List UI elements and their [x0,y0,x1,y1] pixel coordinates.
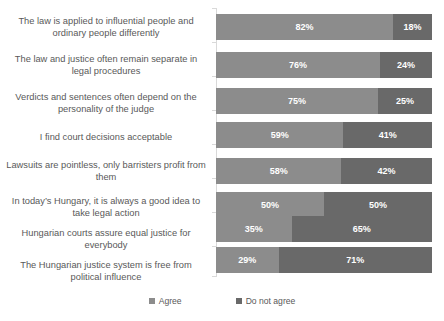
legend-item-do-not-agree[interactable]: Do not agree [236,296,296,306]
category-label: The Hungarian justice system is free fro… [4,254,212,288]
category-label: In today’s Hungary, it is always a good … [4,190,212,224]
bar-segment-disagree: 71% [279,247,432,273]
chart-legend: Agree Do not agree [0,293,444,309]
bar-segment-disagree: 50% [324,192,432,218]
bar-value-label: 71% [346,255,364,265]
legend-swatch-icon [149,298,155,304]
bar-value-label: 82% [296,22,314,32]
bar-segment-agree: 58% [216,158,341,184]
bar-value-label: 50% [261,200,279,210]
bar-value-label: 58% [270,166,288,176]
category-label: Hungarian courts assure equal justice fo… [4,224,212,254]
bar-value-label: 65% [353,224,371,234]
bar-value-label: 59% [271,130,289,140]
axis-tick [212,42,216,43]
legend-label: Do not agree [246,296,296,306]
bar-row: 29% 71% [216,247,432,273]
bar-segment-disagree: 41% [343,122,432,148]
bar-value-label: 35% [245,224,263,234]
bar-value-label: 24% [397,60,415,70]
bar-segment-agree: 50% [216,192,324,218]
legend-item-agree[interactable]: Agree [149,296,182,306]
axis-tick [212,8,216,9]
category-label: Lawsuits are pointless, only barristers … [4,152,212,190]
bar-value-label: 50% [369,200,387,210]
bar-segment-agree: 75% [216,88,378,114]
bar-value-label: 18% [404,22,422,32]
bar-segment-agree: 29% [216,247,279,273]
bar-segment-disagree: 24% [380,52,432,78]
bar-value-label: 25% [396,96,414,106]
legend-label: Agree [159,296,182,306]
bar-segment-disagree: 65% [292,216,432,242]
bar-row: 50% 50% [216,192,432,218]
bar-segment-agree: 59% [216,122,343,148]
category-label: Verdicts and sentences often depend on t… [4,84,212,122]
category-label: I find court decisions acceptable [4,122,212,152]
bar-row: 76% 24% [216,52,432,78]
bar-segment-disagree: 18% [393,14,432,40]
bar-value-label: 41% [379,130,397,140]
bar-segment-agree: 82% [216,14,393,40]
category-label: The law is applied to influential people… [4,8,212,46]
bar-value-label: 42% [378,166,396,176]
bar-value-label: 76% [289,60,307,70]
legend-swatch-icon [236,298,242,304]
bar-segment-disagree: 25% [378,88,432,114]
plot-area: 82% 18% 76% 24% 75% 25% 59% 41% 58% 42% … [216,8,432,277]
category-label: The law and justice often remain separat… [4,46,212,84]
axis-tick [212,276,216,277]
bar-segment-agree: 76% [216,52,380,78]
bar-value-label: 75% [288,96,306,106]
bar-row: 75% 25% [216,88,432,114]
bar-segment-disagree: 42% [341,158,432,184]
bar-value-label: 29% [238,255,256,265]
bar-segment-agree: 35% [216,216,292,242]
stacked-bar-chart: The law is applied to influential people… [0,0,444,321]
bar-row: 58% 42% [216,158,432,184]
bar-row: 59% 41% [216,122,432,148]
bar-row: 82% 18% [216,14,432,40]
bar-row: 35% 65% [216,216,432,242]
